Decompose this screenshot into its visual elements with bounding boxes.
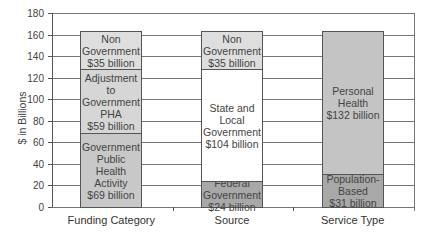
bar-segment: State and Local Government $104 billion <box>201 69 263 182</box>
x-category-label: Funding Category <box>51 214 171 226</box>
bar-segment: Non Government $35 billion <box>201 31 263 70</box>
x-category-label: Source <box>172 214 292 226</box>
x-category-label: Service Type <box>293 214 413 226</box>
stacked-bar-chart: $ in Billions 020406080100120140160180 G… <box>0 0 427 235</box>
bar-segment: Adjustment to Government PHA $59 billion <box>80 69 142 134</box>
bar-segment: Government Public Health Activity $69 bi… <box>80 133 142 208</box>
bar-segment: Personal Health $132 billion <box>322 31 384 175</box>
bar-segment: Population- Based $31 billion <box>322 174 384 208</box>
bar-segment: Non Government $35 billion <box>80 31 142 70</box>
bar-segment: Federal Government $24 billion <box>201 181 263 208</box>
